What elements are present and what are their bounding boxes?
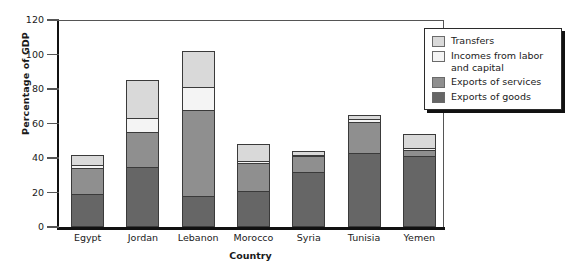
bar-segment — [126, 118, 159, 132]
bar-segment — [71, 155, 104, 165]
bar-segment — [182, 87, 215, 109]
bar-segment — [403, 156, 436, 227]
legend-item: Exports of services — [432, 76, 555, 88]
y-axis-tick-label: 0 — [14, 222, 44, 232]
bar-segment — [292, 156, 325, 172]
legend-swatch-exports-services — [432, 77, 445, 88]
legend-swatch-incomes — [432, 51, 445, 62]
bar-yemen — [403, 134, 436, 227]
bar-segment — [292, 172, 325, 227]
y-axis-tick-label: 120 — [14, 15, 44, 25]
bar-segment — [348, 122, 381, 153]
bar-segment — [182, 110, 215, 196]
y-axis-tick-label: 60 — [14, 119, 44, 129]
bar-segment — [403, 134, 436, 148]
bar-egypt — [71, 155, 104, 227]
legend-label-exports-goods: Exports of goods — [451, 91, 531, 103]
bar-segment — [71, 168, 104, 194]
legend-label-transfers: Transfers — [451, 35, 494, 47]
bar-syria — [292, 151, 325, 227]
bars-layer — [57, 20, 444, 227]
bar-tunisia — [348, 115, 381, 227]
legend-item: Exports of goods — [432, 91, 555, 103]
y-axis-tick-label: 80 — [14, 84, 44, 94]
bar-segment — [71, 194, 104, 227]
bar-segment — [126, 167, 159, 227]
bar-lebanon — [182, 51, 215, 227]
bar-segment — [182, 51, 215, 87]
x-axis-title: Country — [57, 250, 444, 261]
legend-swatch-transfers — [432, 36, 445, 47]
legend-label-exports-services: Exports of services — [451, 76, 541, 88]
bar-segment — [126, 132, 159, 167]
y-axis-tick-label: 20 — [14, 188, 44, 198]
bar-segment — [182, 196, 215, 227]
legend-item: Incomes from labor and capital — [432, 50, 555, 73]
y-axis-tick-label: 40 — [14, 153, 44, 163]
bar-segment — [348, 153, 381, 227]
chart-legend: Transfers Incomes from labor and capital… — [424, 28, 562, 110]
bar-morocco — [237, 144, 270, 227]
y-axis-tick-label: 100 — [14, 50, 44, 60]
x-axis-line — [57, 227, 445, 230]
bar-segment — [126, 80, 159, 118]
legend-label-incomes: Incomes from labor and capital — [451, 50, 555, 73]
x-tick-label-yemen: Yemen — [384, 232, 454, 243]
bar-segment — [237, 191, 270, 227]
bar-jordan — [126, 80, 159, 227]
bar-segment — [237, 144, 270, 161]
legend-swatch-exports-goods — [432, 92, 445, 103]
bar-segment — [237, 163, 270, 191]
legend-item: Transfers — [432, 35, 555, 47]
stacked-bar-chart: Percentage of GDP 020406080100120 EgyptJ… — [0, 0, 568, 275]
